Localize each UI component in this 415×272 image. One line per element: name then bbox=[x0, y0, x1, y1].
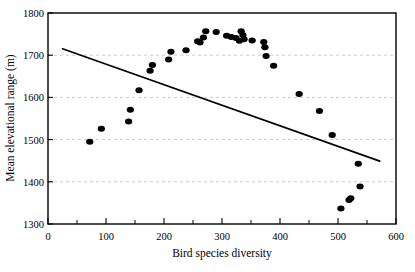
scatter-point bbox=[296, 91, 303, 97]
x-tick-label: 400 bbox=[272, 231, 288, 242]
x-tick-labels: 0 100 200 300 400 500 600 bbox=[45, 231, 404, 242]
scatter-point bbox=[347, 195, 354, 201]
x-tick-label: 0 bbox=[45, 231, 50, 242]
plot-background bbox=[48, 13, 396, 224]
y-tick-label: 1800 bbox=[23, 8, 44, 19]
scatter-point bbox=[316, 108, 323, 114]
scatter-point bbox=[329, 132, 336, 138]
x-tick-label: 100 bbox=[98, 231, 114, 242]
y-tick-labels: 1800 1700 1600 1500 1400 1300 bbox=[23, 8, 44, 230]
scatter-point bbox=[182, 47, 189, 53]
x-axis-title: Bird species diversity bbox=[172, 247, 272, 260]
scatter-point bbox=[165, 56, 172, 62]
y-tick-label: 1600 bbox=[23, 92, 44, 103]
scatter-point bbox=[355, 161, 362, 167]
x-tick-label: 600 bbox=[388, 231, 404, 242]
scatter-point bbox=[261, 44, 268, 50]
scatter-plot-figure: 1800 1700 1600 1500 1400 1300 0 100 200 … bbox=[0, 0, 415, 272]
scatter-point bbox=[149, 62, 156, 68]
scatter-point bbox=[125, 118, 132, 124]
scatter-point bbox=[167, 49, 174, 55]
x-tick-label: 300 bbox=[214, 231, 230, 242]
scatter-point bbox=[202, 28, 209, 34]
scatter-point bbox=[356, 183, 363, 189]
scatter-point bbox=[200, 34, 207, 40]
chart-canvas: 1800 1700 1600 1500 1400 1300 0 100 200 … bbox=[0, 0, 415, 272]
y-tick-label: 1400 bbox=[23, 177, 44, 188]
scatter-point bbox=[146, 68, 153, 74]
scatter-point bbox=[260, 39, 267, 45]
scatter-point bbox=[213, 29, 220, 35]
scatter-point bbox=[135, 87, 142, 93]
y-axis-title: Mean elevational range (m) bbox=[4, 54, 17, 182]
scatter-point bbox=[86, 139, 93, 145]
x-tick-label: 500 bbox=[330, 231, 346, 242]
scatter-point bbox=[262, 53, 269, 59]
scatter-point bbox=[240, 36, 247, 42]
y-tick-label: 1300 bbox=[23, 219, 44, 230]
y-tick-label: 1500 bbox=[23, 135, 44, 146]
scatter-point bbox=[337, 205, 344, 211]
scatter-point bbox=[270, 63, 277, 69]
scatter-point bbox=[196, 40, 203, 46]
x-tick-label: 200 bbox=[156, 231, 172, 242]
scatter-point bbox=[98, 126, 105, 132]
scatter-point bbox=[249, 37, 256, 43]
scatter-point bbox=[127, 107, 134, 113]
y-tick-label: 1700 bbox=[23, 50, 44, 61]
